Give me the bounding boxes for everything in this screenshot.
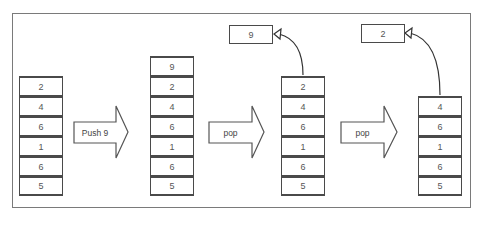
stack-cell: 6 bbox=[418, 156, 462, 176]
curved-arrow-pop-1 bbox=[279, 34, 303, 75]
stack-cell: 4 bbox=[150, 96, 194, 116]
popped-value-2: 2 bbox=[361, 24, 405, 43]
arrowhead-pop-2 bbox=[405, 28, 412, 38]
stack-cell: 5 bbox=[418, 176, 462, 196]
stack-cell: 2 bbox=[150, 76, 194, 96]
stack-cell: 1 bbox=[281, 136, 325, 156]
stack-cell: 1 bbox=[418, 136, 462, 156]
stack-cell: 9 bbox=[150, 56, 194, 76]
stack-cell: 1 bbox=[19, 136, 63, 156]
stack-cell: 2 bbox=[19, 76, 63, 96]
operation-label-pop-1: pop bbox=[209, 122, 252, 143]
stack-cell: 2 bbox=[281, 76, 325, 96]
stack-cell: 5 bbox=[150, 176, 194, 196]
stack-after-pop-2: 4 6 1 6 5 bbox=[418, 96, 462, 196]
popped-value-1: 9 bbox=[229, 25, 273, 44]
stack-cell: 6 bbox=[418, 116, 462, 136]
stack-cell: 6 bbox=[281, 156, 325, 176]
curved-arrow-pop-2 bbox=[410, 33, 440, 95]
stack-after-pop-1: 2 4 6 1 6 5 bbox=[281, 76, 325, 196]
stack-cell: 5 bbox=[19, 176, 63, 196]
stack-cell: 6 bbox=[19, 156, 63, 176]
stack-after-push: 9 2 4 6 1 6 5 bbox=[150, 56, 194, 196]
stack-cell: 4 bbox=[19, 96, 63, 116]
operation-label-pop-2: pop bbox=[341, 122, 384, 143]
stack-cell: 6 bbox=[281, 116, 325, 136]
stack-cell: 4 bbox=[281, 96, 325, 116]
stack-cell: 6 bbox=[150, 116, 194, 136]
stack-initial: 2 4 6 1 6 5 bbox=[19, 76, 63, 196]
stack-cell: 5 bbox=[281, 176, 325, 196]
stack-cell: 1 bbox=[150, 136, 194, 156]
stack-cell: 4 bbox=[418, 96, 462, 116]
stack-cell: 6 bbox=[150, 156, 194, 176]
arrowhead-pop-1 bbox=[274, 29, 281, 39]
stack-cell: 6 bbox=[19, 116, 63, 136]
operation-label-push: Push 9 bbox=[74, 122, 116, 143]
